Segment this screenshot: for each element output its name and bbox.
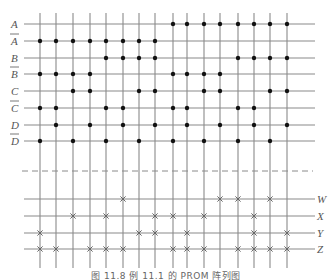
input-label-b: B — [11, 52, 18, 64]
connection-dot — [137, 39, 141, 43]
connection-dot — [171, 72, 175, 76]
connection-dot — [202, 72, 206, 76]
connection-dot — [202, 22, 206, 26]
or-array-programmed-x-marks — [37, 196, 289, 251]
connection-dot — [202, 89, 206, 93]
connection-dot — [153, 39, 157, 43]
connection-dot — [218, 72, 222, 76]
input-label-c-bar: C — [11, 102, 19, 114]
connection-dot — [185, 22, 189, 26]
connection-dot — [104, 139, 108, 143]
connection-dot — [88, 39, 92, 43]
connection-dot — [104, 106, 108, 110]
figure-caption: 图 11.8 例 11.1 的 PROM 阵列图 — [0, 269, 332, 280]
connection-dot — [252, 123, 256, 127]
connection-dot — [236, 56, 240, 60]
output-label-w: W — [317, 193, 327, 205]
prom-array-diagram: AABBCCDD WXYZ — [0, 0, 332, 280]
input-label-a: A — [10, 18, 18, 30]
connection-dot — [185, 72, 189, 76]
connection-dot — [137, 139, 141, 143]
connection-dot — [218, 22, 222, 26]
input-variable-labels: AABBCCDD — [10, 18, 19, 147]
connection-dot — [171, 139, 175, 143]
connection-dot — [71, 39, 75, 43]
connection-dot — [88, 123, 92, 127]
connection-dot — [38, 72, 42, 76]
input-label-d-bar: D — [10, 135, 19, 147]
connection-dot — [268, 89, 272, 93]
connection-dot — [153, 89, 157, 93]
connection-dot — [268, 22, 272, 26]
or-array-output-lines — [24, 199, 315, 249]
connection-dot — [236, 22, 240, 26]
connection-dot — [88, 72, 92, 76]
connection-dot — [185, 106, 189, 110]
and-array-input-lines — [24, 24, 315, 141]
input-label-c: C — [11, 85, 19, 97]
output-variable-labels: WXYZ — [316, 193, 327, 255]
connection-dot — [285, 123, 289, 127]
connection-dot — [71, 72, 75, 76]
connection-dot — [285, 22, 289, 26]
connection-dot — [153, 56, 157, 60]
input-label-b-bar: B — [11, 68, 18, 80]
connection-dot — [121, 56, 125, 60]
connection-dot — [236, 106, 240, 110]
connection-dot — [54, 72, 58, 76]
connection-dot — [252, 22, 256, 26]
connection-dot — [285, 56, 289, 60]
output-label-x: X — [316, 210, 325, 222]
connection-dot — [104, 39, 108, 43]
connection-dot — [71, 89, 75, 93]
connection-dot — [121, 106, 125, 110]
connection-dot — [121, 123, 125, 127]
connection-dot — [252, 106, 256, 110]
connection-dot — [121, 39, 125, 43]
connection-dot — [218, 123, 222, 127]
connection-dot — [54, 39, 58, 43]
connection-dot — [218, 89, 222, 93]
connection-dot — [268, 139, 272, 143]
connection-dot — [104, 56, 108, 60]
connection-dot — [236, 139, 240, 143]
connection-dot — [38, 139, 42, 143]
connection-dot — [54, 106, 58, 110]
connection-dot — [38, 106, 42, 110]
connection-dot — [202, 139, 206, 143]
connection-dot — [171, 106, 175, 110]
output-label-y: Y — [317, 227, 325, 239]
connection-dot — [285, 89, 289, 93]
connection-dot — [54, 123, 58, 127]
connection-dot — [185, 123, 189, 127]
connection-dot — [153, 123, 157, 127]
connection-dot — [71, 139, 75, 143]
input-label-d: D — [10, 119, 19, 131]
connection-dot — [38, 39, 42, 43]
connection-dot — [268, 56, 272, 60]
input-label-a-bar: A — [10, 35, 18, 47]
connection-dot — [137, 89, 141, 93]
connection-dot — [171, 22, 175, 26]
connection-dot — [137, 56, 141, 60]
connection-dot — [88, 89, 92, 93]
connection-dot — [252, 56, 256, 60]
output-label-z: Z — [317, 243, 324, 255]
